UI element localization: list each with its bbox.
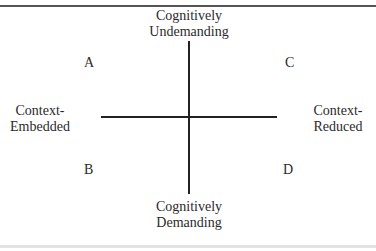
bottom-border-rule — [0, 245, 376, 248]
axis-label-right: Context- Reduced — [302, 103, 374, 135]
axis-label-left-line2: Embedded — [4, 119, 76, 135]
quadrant-label-a: A — [84, 55, 94, 71]
axis-label-left: Context- Embedded — [4, 103, 76, 135]
axis-label-bottom-line1: Cognitively — [139, 199, 239, 215]
axis-label-top-line1: Cognitively — [139, 8, 239, 24]
axis-label-bottom: Cognitively Demanding — [139, 199, 239, 231]
horizontal-axis-line — [101, 116, 277, 118]
axis-label-bottom-line2: Demanding — [139, 215, 239, 231]
axis-label-top: Cognitively Undemanding — [139, 8, 239, 40]
quadrant-label-c: C — [285, 55, 294, 71]
axis-label-right-line2: Reduced — [302, 119, 374, 135]
axis-label-left-line1: Context- — [4, 103, 76, 119]
axis-label-top-line2: Undemanding — [139, 24, 239, 40]
quadrant-label-b: B — [84, 162, 93, 178]
top-border-rule — [0, 5, 376, 7]
axis-label-right-line1: Context- — [302, 103, 374, 119]
quadrant-label-d: D — [283, 162, 293, 178]
